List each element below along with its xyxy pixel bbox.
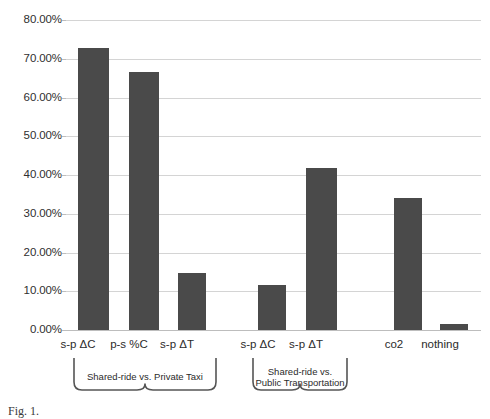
gridline-70 (66, 59, 481, 60)
x-label-bar-2: s-p ΔT (147, 338, 207, 351)
y-tick-label-0: 0.00% (6, 324, 62, 336)
bar-0[interactable] (78, 48, 109, 330)
group-caption-public-transport-line1: Shared-ride vs. (247, 366, 353, 377)
group-caption-private-taxi: Shared-ride vs. Private Taxi (68, 371, 222, 382)
plot-area (66, 20, 481, 330)
y-tick-label-70: 70.00% (6, 53, 62, 65)
bar-4[interactable] (306, 168, 337, 330)
x-label-bar-4: s-p ΔT (276, 338, 336, 351)
gridline-baseline-0 (66, 330, 481, 331)
bar-chart: 80.00% 70.00% 60.00% 50.00% 40.00% 30.00… (0, 0, 490, 419)
x-label-bar-6: nothing (410, 338, 470, 351)
bar-5[interactable] (394, 198, 422, 330)
y-tick-label-40: 40.00% (6, 169, 62, 181)
y-tick-label-60: 60.00% (6, 92, 62, 104)
y-tick-label-20: 20.00% (6, 247, 62, 259)
y-tick-label-50: 50.00% (6, 130, 62, 142)
y-tick-label-30: 30.00% (6, 208, 62, 220)
y-axis: 80.00% 70.00% 60.00% 50.00% 40.00% 30.00… (0, 20, 62, 330)
y-tick-label-10: 10.00% (6, 285, 62, 297)
gridline-80 (66, 20, 481, 21)
bar-1[interactable] (129, 72, 159, 330)
y-tick-label-80: 80.00% (6, 14, 62, 26)
bar-3[interactable] (258, 285, 286, 330)
bar-6[interactable] (440, 324, 468, 330)
group-caption-public-transport-line2: Public Transportation (247, 377, 353, 388)
bar-2[interactable] (178, 273, 206, 330)
figure-caption: Fig. 1. (8, 404, 39, 418)
